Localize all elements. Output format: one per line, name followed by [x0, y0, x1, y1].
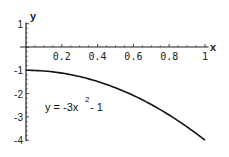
y-tick-label: -2	[14, 89, 23, 100]
plot-area: 0.20.40.60.81 1-1-2-3-4 y x y = -3x 2 - …	[0, 0, 229, 157]
equation-tail: - 1	[90, 101, 103, 113]
x-tick-labels: 0.20.40.60.81	[53, 51, 208, 62]
x-tick-label: 1	[202, 51, 208, 62]
x-axis-label: x	[210, 41, 217, 53]
tick-marks	[26, 24, 205, 141]
y-tick-label: -3	[14, 112, 23, 123]
y-tick-label: -1	[14, 65, 23, 76]
axes	[20, 23, 209, 142]
y-tick-label: 1	[17, 19, 23, 30]
y-tick-label: -4	[14, 135, 23, 146]
equation-base: y = -3x	[45, 101, 79, 113]
x-tick-label: 0.6	[124, 51, 142, 62]
y-axis-label: y	[30, 10, 37, 22]
x-tick-label: 0.8	[160, 51, 178, 62]
x-tick-label: 0.2	[53, 51, 71, 62]
equation-annotation: y = -3x 2 - 1	[45, 95, 103, 113]
x-tick-label: 0.4	[89, 51, 107, 62]
y-tick-labels: 1-1-2-3-4	[14, 19, 23, 147]
